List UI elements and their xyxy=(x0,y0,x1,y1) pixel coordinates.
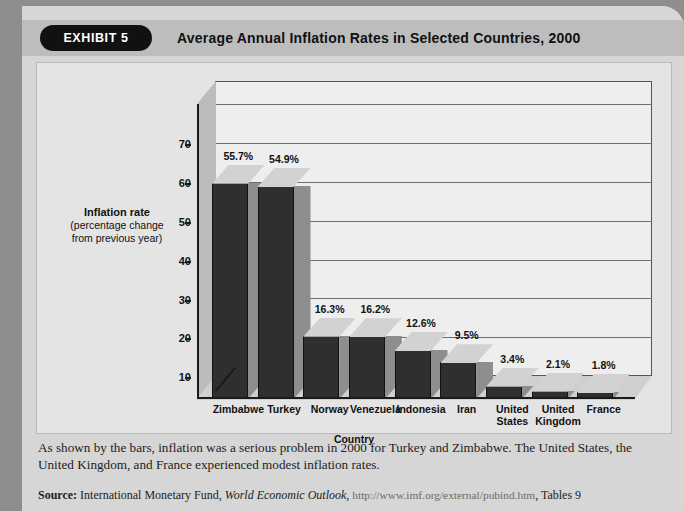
bar-front-face xyxy=(440,362,476,399)
bar[interactable]: 3.4% xyxy=(486,81,522,399)
y-tick-mark xyxy=(185,338,191,340)
source-label: Source: xyxy=(38,488,77,502)
exhibit-page: EXHIBIT 5 Average Annual Inflation Rates… xyxy=(22,6,684,511)
bar[interactable]: 16.3% xyxy=(303,81,339,399)
source-url[interactable]: http://www.imf.org/external/pubind.htm xyxy=(352,489,535,501)
source-organization: International Monetary Fund, xyxy=(80,488,222,502)
y-tick-mark xyxy=(185,183,191,185)
y-tick-mark xyxy=(185,377,191,379)
source-publication: World Economic Outlook, xyxy=(225,488,350,502)
y-tick-mark xyxy=(185,144,191,146)
bar-front-face xyxy=(258,186,294,399)
y-axis-line xyxy=(197,104,199,399)
source-tables: , Tables 9 xyxy=(535,488,581,502)
bar[interactable]: 55.7% xyxy=(212,81,248,399)
bar[interactable]: 1.8% xyxy=(577,81,613,399)
page-sheet: EXHIBIT 5 Average Annual Inflation Rates… xyxy=(22,6,684,511)
chart-plot-area: 55.7%54.9%16.3%16.2%12.6%9.5%3.4%2.1%1.8… xyxy=(197,81,652,399)
chart-panel: Inflation rate (percentage change from p… xyxy=(36,62,672,434)
x-category-label-line: Kingdom xyxy=(522,415,594,427)
exhibit-header-band: EXHIBIT 5 Average Annual Inflation Rates… xyxy=(22,20,684,56)
bar[interactable]: 2.1% xyxy=(532,81,568,399)
bar[interactable]: 9.5% xyxy=(440,81,476,399)
x-category-label-line: France xyxy=(568,403,640,415)
exhibit-title: Average Annual Inflation Rates in Select… xyxy=(177,30,580,46)
y-tick-mark xyxy=(185,300,191,302)
bar[interactable]: 54.9% xyxy=(258,81,294,399)
y-tick-mark xyxy=(185,261,191,263)
bar[interactable]: 12.6% xyxy=(395,81,431,399)
bar-front-face xyxy=(349,336,385,399)
exhibit-source: Source: International Monetary Fund, Wor… xyxy=(38,488,666,503)
y-axis-ticks: 70605040302010 xyxy=(145,81,191,401)
bar-front-face xyxy=(303,336,339,399)
x-axis-line xyxy=(197,397,635,399)
exhibit-badge: EXHIBIT 5 xyxy=(40,25,152,51)
bar-front-face xyxy=(395,350,431,399)
bar-front-face xyxy=(212,183,248,399)
y-tick-mark xyxy=(185,222,191,224)
bar-value-label: 1.8% xyxy=(569,359,639,371)
x-category-label: France xyxy=(568,403,640,415)
bar[interactable]: 16.2% xyxy=(349,81,385,399)
exhibit-caption: As shown by the bars, inflation was a se… xyxy=(38,440,666,473)
axis-depth-line xyxy=(197,376,217,400)
